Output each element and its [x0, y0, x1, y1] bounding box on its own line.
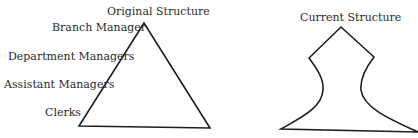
org-structure-diagram: Original Structure Branch Manager Depart…: [0, 0, 418, 138]
level-label-clerks: Clerks: [45, 107, 81, 118]
original-structure-title: Original Structure: [107, 6, 210, 17]
level-label-department-managers: Department Managers: [8, 51, 134, 62]
current-structure-title: Current Structure: [300, 12, 401, 23]
original-structure-triangle: [79, 23, 210, 128]
level-label-branch-manager: Branch Manager: [52, 22, 146, 33]
current-structure-shape: [281, 27, 418, 132]
level-label-assistant-managers: Assistant Managers: [4, 79, 114, 90]
